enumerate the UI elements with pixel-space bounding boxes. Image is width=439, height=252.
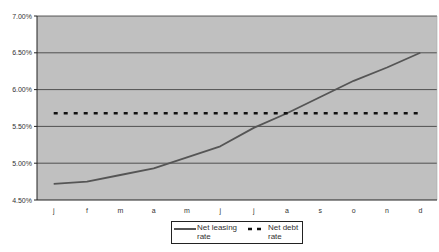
y-axis-ticks: 7.00%6.50%6.00%5.50%5.00%4.50% bbox=[12, 13, 37, 204]
x-axis-ticks: jfmamjjasond bbox=[52, 207, 422, 215]
x-tick-label: a bbox=[285, 207, 289, 214]
y-tick-label: 6.50% bbox=[12, 49, 32, 56]
legend-net-leasing-rate: Net leasing rate bbox=[197, 223, 237, 241]
x-tick-label: f bbox=[86, 207, 88, 214]
legend: Net leasing rate Net debt rate bbox=[171, 221, 303, 244]
x-tick-label: j bbox=[219, 207, 222, 215]
legend-dashed-line-icon bbox=[248, 227, 266, 231]
y-tick-label: 5.00% bbox=[12, 160, 32, 167]
x-tick-label: m bbox=[184, 207, 190, 214]
y-tick-label: 7.00% bbox=[12, 13, 32, 20]
x-tick-label: a bbox=[152, 207, 156, 214]
x-tick-label: j bbox=[52, 207, 55, 215]
x-tick-label: o bbox=[352, 207, 356, 214]
legend-solid-line-icon bbox=[174, 227, 196, 231]
legend-net-debt-rate: Net debt rate bbox=[268, 223, 298, 241]
y-tick-label: 6.00% bbox=[12, 86, 32, 93]
y-tick-label: 4.50% bbox=[12, 197, 32, 204]
x-tick-label: m bbox=[117, 207, 123, 214]
line-chart: 7.00%6.50%6.00%5.50%5.00%4.50% jfmamjjas… bbox=[0, 0, 439, 252]
x-tick-label: j bbox=[252, 207, 255, 215]
x-tick-label: s bbox=[319, 207, 323, 214]
y-tick-label: 5.50% bbox=[12, 123, 32, 130]
plot-area bbox=[37, 16, 437, 200]
x-tick-label: n bbox=[385, 207, 389, 214]
x-tick-label: d bbox=[418, 207, 422, 214]
